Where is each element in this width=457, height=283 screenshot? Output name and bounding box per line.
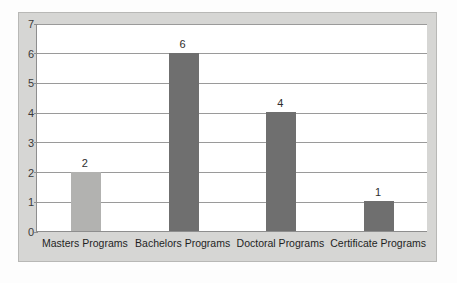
bar-value-label: 6 [180,38,186,50]
y-axis-tick-mark [34,53,38,54]
y-axis-tick-mark [34,202,38,203]
bar [266,112,296,231]
y-axis-tick-mark [34,24,38,25]
gridline [37,53,427,54]
y-axis-tick-label: 2 [18,167,34,178]
x-axis-category-label: Doctoral Programs [237,236,325,250]
x-axis-category-label: Bachelors Programs [135,236,230,250]
bar-value-label: 2 [82,157,88,169]
bar [364,201,394,231]
y-axis-tick-label: 3 [18,137,34,148]
y-axis-tick-label: 7 [18,19,34,30]
x-axis-category-label: Certificate Programs [330,236,426,250]
y-axis-tick-label: 1 [18,197,34,208]
y-axis-tick-mark [34,142,38,143]
y-axis-tick-mark [34,83,38,84]
y-axis-tick-label: 4 [18,108,34,119]
gridline [37,24,427,25]
y-axis-tick-mark [34,232,38,233]
y-axis-tick-mark [34,113,38,114]
plot-area [36,24,427,232]
figure-page: 01234567 Masters ProgramsBachelors Progr… [0,0,457,283]
x-axis-category-labels: Masters ProgramsBachelors ProgramsDoctor… [36,236,427,256]
y-axis-tick-label: 6 [18,48,34,59]
y-axis: 01234567 [16,24,34,232]
bar-value-label: 4 [277,97,283,109]
gridline [37,83,427,84]
gridline [37,113,427,114]
bar-value-label: 1 [375,186,381,198]
bar [71,172,101,231]
x-axis-category-label: Masters Programs [42,236,128,250]
gridline [37,142,427,143]
y-axis-tick-label: 5 [18,78,34,89]
y-axis-tick-mark [34,172,38,173]
bar [169,53,199,231]
y-axis-tick-label: 0 [18,227,34,238]
